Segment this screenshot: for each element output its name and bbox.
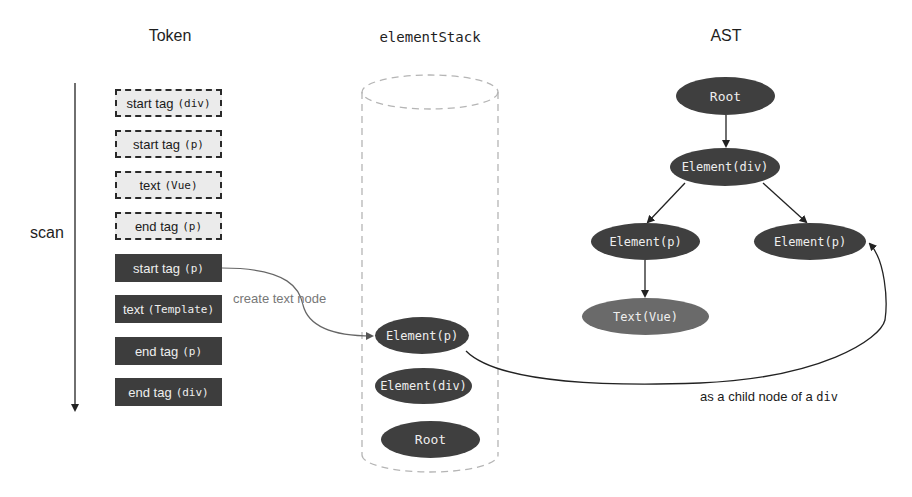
ast-node-element-p-first: Element(p) (591, 223, 700, 260)
scan-label: scan (30, 224, 64, 242)
token-start-tag-div: start tag(div) (115, 89, 222, 117)
token-end-tag-p: end tag(p) (115, 212, 222, 240)
stack-node-root: Root (381, 421, 480, 458)
token-text-template: text(Template) (115, 295, 222, 323)
token-end-tag-p-consumed: end tag(p) (115, 337, 222, 365)
child-node-label: as a child node of a div (700, 389, 838, 404)
token-text-vue: text(Vue) (115, 171, 222, 199)
ast-node-root: Root (676, 77, 775, 115)
element-stack-cylinder (362, 75, 498, 472)
token-arg: (div) (176, 386, 209, 399)
child-node-label-code: div (816, 390, 838, 404)
token-arg: (div) (177, 97, 210, 110)
token-kind: start tag (133, 137, 180, 152)
token-kind: text (139, 178, 160, 193)
token-start-tag-p-consumed: start tag(p) (115, 254, 222, 282)
token-arg: (Template) (148, 303, 214, 316)
token-arg: (p) (184, 262, 204, 275)
token-kind: text (123, 302, 144, 317)
token-start-tag-p: start tag(p) (115, 130, 222, 158)
stack-node-element-p: Element(p) (375, 317, 469, 354)
token-arg: (p) (182, 345, 202, 358)
token-end-tag-div: end tag(div) (115, 378, 222, 406)
token-kind: start tag (133, 261, 180, 276)
create-text-node-label: create text node (233, 291, 326, 306)
token-arg: (p) (182, 220, 202, 233)
ast-node-text-vue: Text(Vue) (582, 298, 709, 335)
token-kind: start tag (126, 96, 173, 111)
token-arg: (p) (184, 138, 204, 151)
ast-node-element-div: Element(div) (670, 148, 780, 186)
token-arg: (Vue) (164, 179, 197, 192)
token-kind: end tag (135, 219, 178, 234)
stack-node-element-div: Element(div) (375, 368, 472, 404)
token-kind: end tag (128, 385, 171, 400)
token-kind: end tag (135, 344, 178, 359)
child-node-label-text: as a child node of a (700, 389, 816, 404)
ast-node-element-p-second: Element(p) (754, 223, 866, 260)
